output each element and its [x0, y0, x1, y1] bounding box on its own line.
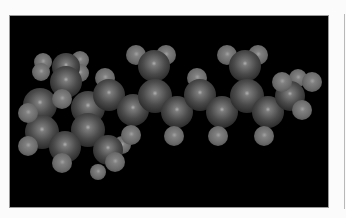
hydrogen-atom	[18, 103, 38, 123]
hydrogen-atom	[18, 136, 38, 156]
hydrogen-atom	[272, 72, 292, 92]
hydrogen-atom	[302, 72, 322, 92]
hydrogen-atom	[52, 153, 72, 173]
hydrogen-atom	[105, 152, 125, 172]
hydrogen-atom	[292, 100, 312, 120]
page-edge-divider	[344, 14, 345, 209]
hydrogen-atom	[121, 125, 141, 145]
hydrogen-atom	[90, 164, 106, 180]
hydrogen-atom	[164, 126, 184, 146]
hydrogen-atom	[52, 89, 72, 109]
carbon-atom	[229, 50, 261, 82]
hydrogen-atom	[208, 126, 228, 146]
hydrogen-atom	[32, 63, 50, 81]
hydrogen-atom	[254, 126, 274, 146]
molecule-figure	[9, 15, 329, 208]
carbon-atom	[138, 50, 170, 82]
